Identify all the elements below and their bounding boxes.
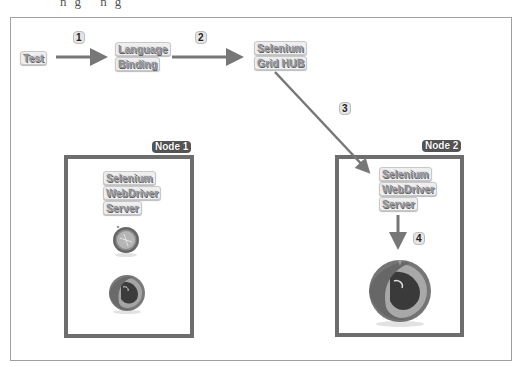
arrow-3 (275, 72, 367, 170)
node-1-server-line-2: WebDriver (103, 186, 161, 200)
step-3-number: 3 (339, 102, 351, 115)
node-2-server-line-3: Server (379, 197, 418, 211)
language-binding-line-2: Binding (115, 57, 160, 71)
step-1-number: 1 (73, 31, 85, 44)
test-label-text: Test (20, 51, 47, 65)
grid-hub-line-1: Selenium (254, 41, 307, 55)
node-2-server-line-1: Selenium (379, 167, 432, 181)
grid-hub-label: Selenium Grid HUB (254, 41, 307, 71)
test-label: Test (20, 51, 47, 66)
node-1-server-line-3: Server (103, 201, 142, 215)
language-binding-line-1: Language (115, 42, 171, 56)
node-1-server-line-1: Selenium (103, 171, 156, 185)
language-binding-label: Language Binding (115, 42, 171, 72)
node-1-server-label: Selenium WebDriver Server (103, 171, 161, 216)
node-2-server-label: Selenium WebDriver Server (379, 167, 437, 212)
grid-hub-line-2: Grid HUB (254, 56, 307, 70)
firefox-icon (369, 260, 431, 327)
safari-icon (113, 226, 139, 257)
step-4-number: 4 (413, 232, 425, 245)
node-2-server-line-2: WebDriver (379, 182, 437, 196)
step-2-number: 2 (195, 31, 207, 44)
firefox-icon (109, 275, 145, 314)
